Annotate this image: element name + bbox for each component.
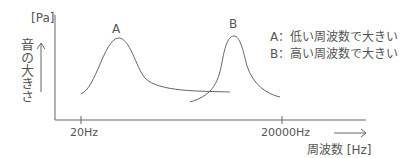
curve-b-label: B (229, 17, 237, 31)
curve-a-label: A (112, 22, 120, 36)
legend-item-b: B：高い周波数で大きい (270, 46, 398, 63)
curve-a (81, 38, 230, 94)
legend: A：低い周波数で大きい B：高い周波数で大きい (270, 29, 398, 63)
x-axis-label: 周波数 [Hz] (307, 140, 372, 157)
y-unit-label: [Pa] (31, 11, 54, 25)
tick-label-20hz: 20Hz (70, 126, 98, 139)
y-axis-label: 音の大きさ (19, 38, 33, 103)
frequency-diagram (0, 0, 406, 158)
tick-label-20000hz: 20000Hz (261, 126, 310, 139)
curve-b (190, 36, 280, 102)
legend-item-a: A：低い周波数で大きい (270, 29, 398, 46)
